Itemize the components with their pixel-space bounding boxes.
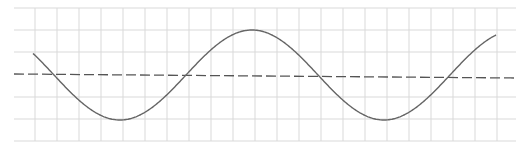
dashed-baseline [14, 74, 516, 78]
sine-wave-diagram [0, 0, 527, 149]
